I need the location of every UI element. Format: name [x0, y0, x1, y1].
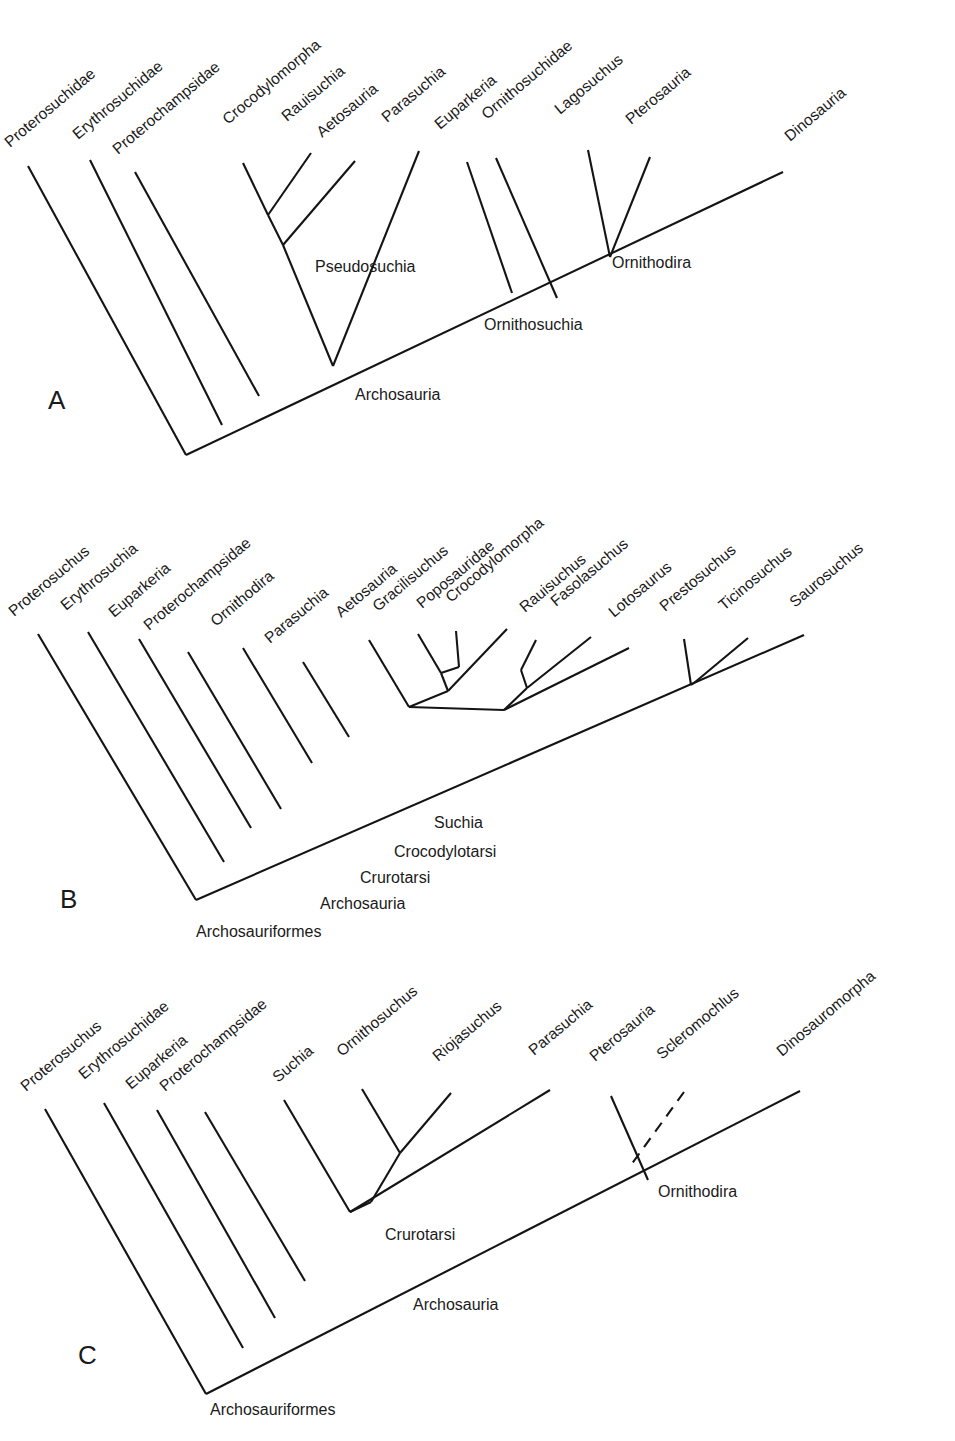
- panel-b-tip-branch-aetosauria: [369, 640, 409, 707]
- panel-a-tip-branch-aetosauria: [283, 161, 355, 245]
- panel-b-tip-branch-proterosuchus: [38, 634, 196, 900]
- panel-a-tip-branch-pterosauria: [610, 157, 650, 257]
- panel-c-backbone: [206, 1091, 800, 1394]
- panel-b-tip-branch-parasuchia: [303, 662, 349, 737]
- tip-label-crocodylomorpha: Crocodylomorpha: [219, 35, 324, 127]
- panel-b-internal-raui-faso: [521, 670, 527, 688]
- node-label-crurotarsi-b: Crurotarsi: [360, 869, 430, 886]
- node-label-pseudosuchia: Pseudosuchia: [315, 258, 416, 275]
- panel-b-backbone: [196, 635, 804, 900]
- tip-label-scleromochlus: Scleromochlus: [653, 984, 742, 1063]
- panel-c-node-labels: Ornithodira Crurotarsi Archosauria Archo…: [210, 1183, 737, 1418]
- node-label-archosauria: Archosauria: [355, 386, 440, 403]
- panel-b-tip-branch-fasolasuchus: [527, 637, 591, 688]
- tip-label-dinosauromorpha: Dinosauromorpha: [773, 967, 879, 1059]
- panel-b-tip-labels: Proterosuchus Erythrosuchia Euparkeria P…: [5, 513, 866, 646]
- panel-letter-b: B: [60, 884, 77, 914]
- panel-letter-c: C: [78, 1340, 97, 1370]
- panel-c-tip-branch-parasuchia: [350, 1090, 550, 1212]
- node-label-archosauria-c: Archosauria: [413, 1296, 498, 1313]
- panel-b-tip-branch-euparkeria: [139, 639, 251, 828]
- panel-letter-a: A: [48, 385, 66, 415]
- node-label-crurotarsi-c: Crurotarsi: [385, 1226, 455, 1243]
- tip-label-pterosauria: Pterosauria: [622, 63, 694, 127]
- panel-c-tip-branch-proterochampsidae: [205, 1112, 305, 1281]
- panel-b-tip-branch-ticinosuchus: [694, 638, 748, 683]
- node-label-ornithodira: Ornithodira: [612, 254, 691, 271]
- tip-label-pterosauria-c: Pterosauria: [586, 1000, 658, 1064]
- panel-c-internal-ornitho-rioja: [371, 1153, 400, 1202]
- panel-c-tip-branch-pterosauria: [611, 1096, 648, 1180]
- panel-b-tip-branch-proterochampsidae: [188, 652, 281, 809]
- panel-c: Proterosuchus Erythrosuchidae Euparkeria…: [0, 956, 955, 1441]
- panel-a-node-labels: Pseudosuchia Ornithosuchia Archosauria O…: [315, 254, 691, 403]
- tip-label-riojasuchus: Riojasuchus: [429, 997, 505, 1064]
- panel-b-tip-branch-ornithodira: [243, 648, 312, 763]
- panel-c-tip-branch-riojasuchus: [400, 1093, 451, 1153]
- node-label-archosauriformes-c: Archosauriformes: [210, 1401, 335, 1418]
- panel-a-internal-croc-raui: [268, 215, 283, 245]
- panel-c-tip-labels: Proterosuchus Erythrosuchidae Euparkeria…: [17, 967, 879, 1094]
- node-label-ornithosuchia: Ornithosuchia: [484, 316, 583, 333]
- panel-b-internal-raui-clade-stem: [504, 688, 527, 710]
- panel-a-tip-labels: Proterosuchidae Erythrosuchidae Proteroc…: [1, 35, 849, 157]
- panel-b-tip-branch-rauisuchus: [521, 640, 536, 670]
- tip-label-parasuchia-b: Parasuchia: [261, 583, 332, 646]
- cladogram-figure: Proterosuchidae Erythrosuchidae Proteroc…: [0, 0, 955, 1441]
- panel-c-tip-branch-ornithosuchus: [362, 1089, 400, 1153]
- panel-b-internal-suchia-spine: [409, 707, 504, 710]
- panel-b-node-labels: Suchia Crocodylotarsi Crurotarsi Archosa…: [196, 814, 496, 940]
- node-label-ornithodira-c: Ornithodira: [658, 1183, 737, 1200]
- tip-label-parasuchia-c: Parasuchia: [525, 995, 596, 1058]
- tip-label-ornithosuchus: Ornithosuchus: [333, 982, 421, 1059]
- panel-a: Proterosuchidae Erythrosuchidae Proteroc…: [0, 0, 955, 480]
- panel-b-tip-branch-poposauridae: [456, 631, 459, 667]
- tip-label-suchia-c: Suchia: [269, 1042, 317, 1086]
- node-label-suchia: Suchia: [434, 814, 483, 831]
- panel-a-tip-branch-ornithosuchidae: [496, 158, 557, 298]
- tip-label-dinosauria: Dinosauria: [781, 83, 849, 144]
- panel-b-internal-gracili-popo: [441, 673, 448, 691]
- node-label-archosauria-b: Archosauria: [320, 895, 405, 912]
- panel-b-internal-crocodylomorpha-grp: [409, 691, 448, 707]
- panel-a-tip-branch-crocodylomorpha: [243, 163, 268, 215]
- panel-a-tip-branch-proterochampsidae: [135, 172, 259, 396]
- panel-c-tip-branch-suchia: [284, 1100, 350, 1212]
- panel-b-internal-popo-link: [441, 667, 459, 673]
- tip-label-proterochampsidae: Proterochampsidae: [109, 58, 223, 157]
- node-label-archosauriformes-b: Archosauriformes: [196, 923, 321, 940]
- panel-a-tip-branch-lagosuchus: [588, 150, 610, 257]
- panel-a-tip-branch-rauisuchia: [268, 153, 311, 215]
- panel-b-tip-branch-prestosuchus: [684, 639, 691, 685]
- node-label-crocodylotarsi: Crocodylotarsi: [394, 843, 496, 860]
- tip-label-saurosuchus: Saurosuchus: [786, 539, 866, 610]
- panel-b-tip-branch-gracilisuchus: [418, 634, 441, 673]
- panel-b: Proterosuchus Erythrosuchia Euparkeria P…: [0, 480, 955, 950]
- panel-c-tip-branch-euparkeria: [157, 1110, 275, 1318]
